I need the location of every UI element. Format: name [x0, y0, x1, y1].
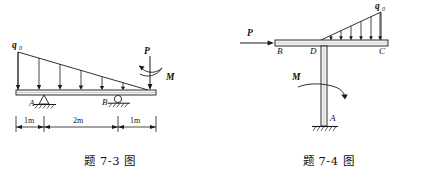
- figure-7-3: q 0: [0, 0, 220, 181]
- figure-7-4-caption: 题 7-4 图: [220, 152, 437, 168]
- label-force-p: P: [247, 28, 253, 38]
- load-label-q0: q: [12, 40, 17, 50]
- load-label-q0-subscript: 0: [382, 6, 385, 12]
- support-a-pin: A: [28, 95, 56, 109]
- figure-7-4: q 0: [220, 0, 437, 181]
- vertical-column: [321, 46, 327, 126]
- label-moment-m: M: [165, 72, 175, 82]
- load-label-q0: q: [375, 1, 380, 11]
- label-node-a: A: [329, 113, 336, 123]
- support-a-hatching: [35, 105, 54, 109]
- support-b-hatching: [109, 103, 128, 107]
- load-label-q0-subscript: 0: [19, 45, 22, 51]
- load-arrow-heads: [16, 85, 125, 90]
- force-p: P: [240, 28, 274, 46]
- beam: [16, 90, 156, 95]
- dimension-label-2: 2m: [73, 116, 84, 125]
- label-node-c: C: [379, 46, 386, 56]
- support-b-roller: B: [102, 95, 130, 107]
- figure-7-4-drawing: q 0: [220, 0, 437, 150]
- force-p: P: [144, 46, 152, 90]
- figure-7-3-canvas: q 0: [0, 0, 220, 150]
- moment-m-arrowhead: [341, 94, 348, 99]
- load-arrows: [331, 13, 380, 39]
- load-arrows: [18, 52, 123, 88]
- figure-7-3-drawing: q 0: [0, 0, 220, 150]
- label-node-b: B: [277, 46, 283, 56]
- distributed-load-q0: q 0: [321, 1, 385, 41]
- horizontal-beam: [275, 40, 388, 46]
- dimension-label-1: 1m: [24, 116, 35, 125]
- label-support-a: A: [28, 98, 35, 108]
- label-moment-m: M: [291, 72, 301, 82]
- label-force-p: P: [144, 46, 150, 56]
- figure-7-4-canvas: q 0: [220, 0, 437, 150]
- support-a-hatching: [313, 127, 336, 132]
- label-node-d: D: [309, 46, 317, 56]
- dimension-label-3: 1m: [130, 116, 141, 125]
- distributed-load-q0: q 0: [12, 40, 148, 90]
- label-support-b: B: [102, 97, 108, 107]
- figure-7-3-caption: 题 7-3 图: [0, 152, 220, 168]
- diagram-page: q 0: [0, 0, 437, 181]
